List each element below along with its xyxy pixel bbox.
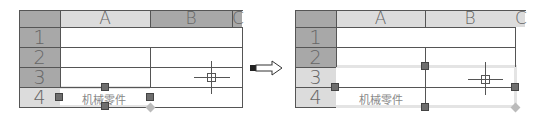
column-label-b: B	[425, 10, 515, 27]
grid-line	[19, 107, 243, 108]
grid-line	[425, 47, 426, 108]
corner-grip-icon[interactable]	[511, 103, 521, 113]
header-corner	[295, 10, 336, 27]
grip-handle-top[interactable]	[101, 83, 109, 91]
grip-handle-left[interactable]	[55, 93, 63, 101]
cell-text[interactable]: 机械零件	[359, 91, 403, 107]
grid-line	[150, 47, 151, 87]
row-label-2: 2	[295, 48, 336, 67]
column-label-c: C	[511, 10, 531, 27]
column-label-a: A	[60, 10, 150, 27]
row-label-4: 4	[295, 88, 336, 107]
row-label-1: 1	[19, 28, 60, 47]
header-corner	[19, 10, 60, 27]
grip-handle-bottom[interactable]	[101, 102, 109, 110]
row-label-1: 1	[295, 28, 336, 47]
row-label-3: 3	[19, 68, 60, 87]
row-label-3: 3	[295, 68, 336, 87]
grip-handle-right[interactable]	[511, 83, 519, 91]
grip-handle-bottom[interactable]	[421, 103, 429, 111]
grid-line	[242, 27, 243, 108]
grid-line	[515, 27, 516, 67]
right-arrow-icon	[249, 60, 285, 76]
corner-grip-icon[interactable]	[146, 103, 156, 113]
grip-handle-right[interactable]	[146, 93, 154, 101]
column-label-a: A	[336, 10, 425, 27]
row-label-4: 4	[19, 88, 60, 107]
column-label-c: C	[232, 10, 244, 27]
grip-handle-left[interactable]	[331, 83, 339, 91]
grip-handle-top[interactable]	[421, 62, 429, 70]
column-label-b: B	[150, 10, 232, 27]
row-label-2: 2	[19, 48, 60, 67]
